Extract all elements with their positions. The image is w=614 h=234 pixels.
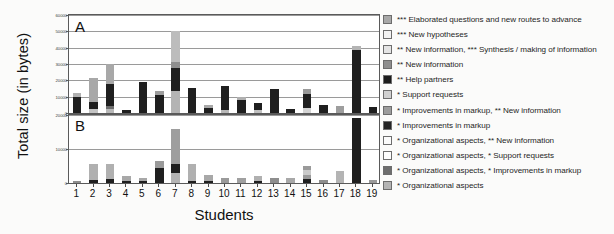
legend-label: * Improvements in markup, ** New informa… [397,104,561,116]
x-tick-mark [372,184,373,187]
legend-item: * Improvements in markup [383,119,614,134]
y-tick-mark [66,15,69,16]
legend-item: * Improvements in markup, ** New informa… [383,104,614,119]
panel-b-letter: B [75,117,85,134]
x-tick-mark [109,184,110,187]
x-tick-label: 17 [333,188,344,199]
x-tick-label: 11 [235,188,245,199]
legend-swatch-icon [383,121,392,130]
panel-b: B 01000020000 [68,114,380,184]
y-tick-label: 10000 [33,147,67,152]
y-tick-mark [66,64,69,65]
x-tick-label: 19 [366,188,377,199]
x-tick-label: 16 [317,188,328,199]
x-tick-mark [323,184,324,187]
y-tick-label: 20000 [33,113,67,118]
legend-label: * Organizational aspects [397,179,484,191]
x-tick-mark [191,184,192,187]
legend-swatch-icon [383,75,392,84]
y-tick-mark [66,31,69,32]
legend-label: *** New hypotheses [397,28,468,40]
legend-item: * Organizational aspects, ** New informa… [383,134,614,149]
legend-label: * Organizational aspects, ** New informa… [397,134,554,146]
legend: *** Elaborated questions and new routes … [383,13,614,194]
x-tick-label: 15 [301,188,312,199]
x-tick-mark [339,184,340,187]
y-tick-mark [66,115,69,116]
legend-swatch-icon [383,60,392,69]
legend-swatch-icon [383,90,392,99]
y-tick-label: 10000 [33,94,67,99]
x-tick-mark [208,184,209,187]
legend-label: * Support requests [397,88,463,100]
y-tick-mark [66,149,69,150]
x-tick-mark [142,184,143,187]
x-axis: 12345678910111213141516171819 [68,184,380,204]
x-tick-label: 18 [350,188,361,199]
legend-label: * Organizational aspects, * Improvements… [397,164,581,176]
x-tick-label: 13 [268,188,279,199]
x-tick-mark [290,184,291,187]
x-tick-mark [273,184,274,187]
x-tick-mark [93,184,94,187]
x-tick-mark [175,184,176,187]
legend-swatch-icon [383,166,392,175]
x-tick-label: 6 [156,188,162,199]
panel-a-letter: A [75,18,85,35]
legend-item: ** New information, *** Synthesis / maki… [383,43,614,58]
legend-label: ** New information, *** Synthesis / maki… [397,43,597,55]
x-tick-label: 10 [218,188,229,199]
y-tick-mark [66,48,69,49]
legend-swatch-icon [383,45,392,54]
x-tick-label: 1 [73,188,79,199]
x-tick-label: 4 [123,188,129,199]
legend-item: * Organizational aspects, * Support requ… [383,149,614,164]
legend-item: ** New information [383,58,614,73]
legend-item: *** Elaborated questions and new routes … [383,13,614,28]
legend-label: ** Help partners [397,73,453,85]
legend-item: ** Help partners [383,73,614,88]
x-tick-label: 7 [172,188,178,199]
x-tick-mark [355,184,356,187]
panel-b-y-ticks: 01000020000 [69,115,379,183]
x-tick-label: 2 [90,188,96,199]
legend-label: ** New information [397,58,463,70]
y-axis-title: Total size (in bytes) [15,11,33,181]
x-tick-mark [158,184,159,187]
x-tick-mark [240,184,241,187]
x-axis-title: Students [68,206,380,223]
legend-swatch-icon [383,136,392,145]
x-tick-label: 14 [284,188,295,199]
x-tick-label: 12 [251,188,262,199]
legend-swatch-icon [383,30,392,39]
y-tick-label: 50000 [33,29,67,34]
x-tick-label: 8 [188,188,194,199]
y-tick-label: 20000 [33,78,67,83]
legend-item: * Support requests [383,88,614,103]
legend-item: *** New hypotheses [383,28,614,43]
y-tick-mark [66,80,69,81]
legend-swatch-icon [383,181,392,190]
y-tick-label: 30000 [33,62,67,67]
x-tick-mark [125,184,126,187]
x-tick-mark [306,184,307,187]
legend-label: *** Elaborated questions and new routes … [397,13,582,25]
legend-label: * Organizational aspects, * Support requ… [397,149,554,161]
x-tick-label: 5 [139,188,145,199]
panel-a: A 0100002000030000400005000060000 [68,14,380,114]
y-tick-label: 60000 [33,13,67,18]
legend-item: * Organizational aspects, * Improvements… [383,164,614,179]
figure-root: Total size (in bytes) A 0100002000030000… [0,0,614,234]
y-tick-mark [66,97,69,98]
panel-a-y-ticks: 0100002000030000400005000060000 [69,15,379,113]
legend-swatch-icon [383,106,392,115]
x-tick-label: 3 [106,188,112,199]
x-tick-mark [224,184,225,187]
x-tick-label: 9 [205,188,211,199]
legend-item: * Organizational aspects [383,179,614,194]
legend-label: * Improvements in markup [397,119,490,131]
legend-swatch-icon [383,15,392,24]
y-tick-label: 40000 [33,45,67,50]
x-tick-mark [257,184,258,187]
y-tick-label: 0 [33,181,67,186]
